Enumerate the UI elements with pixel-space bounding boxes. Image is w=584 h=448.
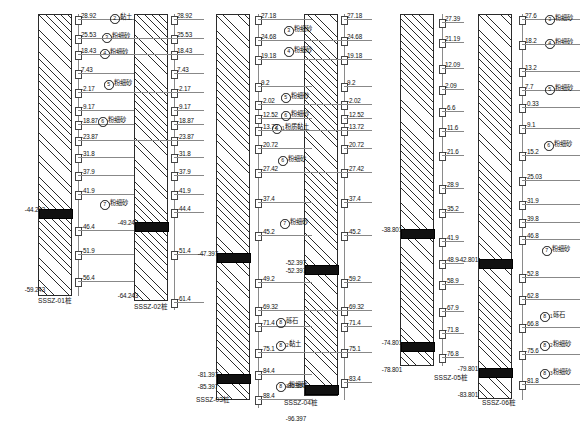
sssz-04-depth-value: -37.4	[347, 195, 361, 202]
sssz-02-leader	[174, 175, 204, 176]
defect-top-value-sssz-05: -38.801	[360, 226, 402, 233]
sssz-01-depth-value: -9.17	[81, 103, 95, 110]
stratum-correlation-line	[258, 104, 344, 105]
sssz-04-depth-value: 24.68	[347, 33, 362, 40]
pile-column-sssz-01[interactable]	[38, 14, 72, 296]
sssz-05-leader	[442, 284, 464, 285]
defect-band-sssz-04[interactable]	[305, 265, 339, 275]
stratum-correlation-line	[522, 44, 580, 45]
sssz-04-leader	[344, 352, 372, 353]
soil-layer-label: 6粉细砂	[278, 155, 306, 166]
sssz-03-depth-value: 19.18	[261, 52, 276, 59]
sssz-02-depth-value: 28.92	[177, 12, 192, 19]
defect-band-sssz-06[interactable]	[479, 259, 513, 269]
sssz-05-leader	[442, 241, 464, 242]
stratum-correlation-line	[522, 107, 580, 108]
stratum-correlation-line	[78, 92, 174, 93]
sssz-01-depth-value: 25.53	[81, 31, 96, 38]
sssz-03-depth-value: -20.72	[261, 141, 278, 148]
stratum-correlation-line	[258, 40, 344, 41]
sssz-03-depth-value: -27.42	[261, 165, 278, 172]
sssz-02-leader	[174, 54, 204, 55]
pile-toe-value-sssz-06: -83.801	[436, 391, 478, 398]
defect-band2-sssz-06[interactable]	[479, 368, 513, 378]
sssz-06-leader	[522, 222, 580, 223]
sssz-03-leader	[258, 235, 312, 236]
defect-band2-sssz-03[interactable]	[217, 374, 251, 384]
stratum-correlation-line	[258, 130, 344, 131]
sssz-06-leader	[522, 299, 580, 300]
soil-layer-label: 6粉细砂	[281, 110, 309, 121]
sssz-02-leader	[174, 302, 204, 303]
defect-band2-sssz-05[interactable]	[401, 342, 435, 352]
defect-band-sssz-03[interactable]	[217, 253, 251, 263]
sssz-05-depth-value: 12.09	[445, 61, 460, 68]
soil-layer-label: 81砾石	[540, 311, 565, 322]
pile-column-sssz-06[interactable]	[478, 14, 512, 399]
sssz-02-leader	[174, 194, 204, 195]
sssz-04-depth-value: -75.1	[347, 345, 361, 352]
sssz-05-depth-value: -58.9	[445, 277, 459, 284]
sssz-05-depth-value: 27.39	[445, 15, 460, 22]
sssz-01-depth-value: -31.8	[81, 150, 95, 157]
stratum-correlation-line	[78, 54, 174, 55]
sssz-04-depth-value: -59.2	[347, 275, 361, 282]
sssz-04-depth-value: -13.72	[347, 123, 364, 130]
sssz-01-depth-value: -23.87	[81, 133, 98, 140]
sssz-05-leader	[442, 263, 464, 264]
sssz-04-depth-value: -20.72	[347, 141, 364, 148]
sssz-06-leader	[522, 128, 580, 129]
sssz-02-leader	[174, 140, 204, 141]
sssz-01-depth-value: -51.9	[81, 247, 95, 254]
sssz-02-leader	[174, 19, 204, 20]
pile-column-sssz-05[interactable]	[400, 14, 434, 366]
sssz-06-leader	[522, 327, 580, 328]
sssz-01-depth-value: -41.9	[81, 187, 95, 194]
sssz-04-depth-value: -71.4	[347, 319, 361, 326]
sssz-06-leader	[522, 71, 580, 72]
sssz-01-depth-value: 18.43	[81, 47, 96, 54]
pile-toe-value-sssz-01: -59.243	[7, 286, 45, 293]
defect-band-sssz-05[interactable]	[401, 229, 435, 239]
defect-top-value-sssz-03: -47.397	[178, 250, 218, 257]
sssz-04-depth-value: -2.02	[347, 97, 361, 104]
soil-layer-label: 5粉细砂	[104, 79, 132, 90]
sssz-03-leader	[258, 148, 312, 149]
sssz-06-depth-value: 7.7	[525, 83, 533, 90]
sssz-02-leader	[174, 124, 204, 125]
pile-column-sssz-02[interactable]	[134, 14, 168, 301]
sssz-01-leader	[78, 281, 134, 282]
pile-caption-sssz-01: SSSZ-01桩	[22, 297, 88, 305]
sssz-05-depth-value: -21.6	[445, 148, 459, 155]
pile-column-sssz-04[interactable]	[304, 14, 338, 396]
sssz-01-leader	[78, 110, 134, 111]
soil-layer-label: 6粉细砂	[98, 116, 126, 127]
defect-band2-sssz-04[interactable]	[305, 385, 339, 395]
sssz-03-depth-value: -88.4	[261, 392, 275, 399]
borehole-profile-drawing: -44.243-59.243SSSZ-01桩-49.243-64.243SSSZ…	[0, 0, 584, 448]
sssz-01-depth-value: 28.92	[81, 12, 96, 19]
defect-band-sssz-02[interactable]	[135, 222, 169, 232]
sssz-03-depth-value: -84.4	[261, 367, 275, 374]
soil-layer-label: 5粉细砂	[281, 92, 309, 103]
sssz-04-leader	[344, 104, 372, 105]
sssz-03-depth-value: -49.2	[261, 275, 275, 282]
sssz-05-depth-value: -41.9	[445, 234, 459, 241]
sssz-04-leader	[344, 235, 372, 236]
sssz-04-leader	[344, 19, 372, 20]
pile-caption-sssz-05: SSSZ-05桩	[418, 374, 484, 382]
sssz-06-depth-value: 27.6	[525, 12, 537, 19]
sssz-04-leader	[344, 282, 372, 283]
sssz-02-leader	[174, 92, 204, 93]
sssz-02-depth-value: 7.43	[177, 66, 189, 73]
sssz-01-depth-value: -56.4	[81, 274, 95, 281]
sssz-04-leader	[344, 40, 372, 41]
pile-column-sssz-03[interactable]	[216, 14, 250, 400]
soil-layer-label: 4粉细砂	[284, 46, 312, 57]
sssz-02-depth-value: -61.4	[177, 295, 191, 302]
sssz-03-leader	[258, 399, 312, 400]
sssz-03-depth-value: -75.1	[261, 345, 275, 352]
sssz-05-leader	[442, 188, 464, 189]
sssz-05-depth-value: -6.6	[445, 104, 455, 111]
sssz-04-leader	[344, 202, 372, 203]
